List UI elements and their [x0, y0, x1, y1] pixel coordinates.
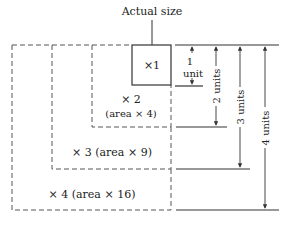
box-x4-label: × 4 (area × 16)	[49, 188, 136, 201]
scale-diagram: Actual size ×1 × 2 (area × 4) × 3 (area …	[0, 0, 292, 225]
box-x2-label-line1: × 2	[121, 93, 141, 106]
dim-2-units-label: 2 units	[211, 69, 222, 104]
dim-3-units-label: 3 units	[235, 90, 246, 125]
dim-1-unit-label-line2: unit	[183, 68, 203, 79]
actual-size-label: Actual size	[121, 5, 183, 18]
dim-4-units-label: 4 units	[260, 111, 271, 146]
box-x2-label-line2: (area × 4)	[105, 108, 157, 119]
dim-1-unit-label-line1: 1	[187, 56, 193, 67]
box-x3-label: × 3 (area × 9)	[72, 146, 152, 159]
box-x1-label: ×1	[144, 59, 160, 72]
